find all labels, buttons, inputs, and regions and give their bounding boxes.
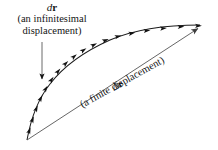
dr-label-group: dr (an infinitesimal displacement) (2, 1, 102, 37)
physics-displacement-figure: dr (an infinitesimal displacement) Δr (a… (0, 0, 218, 150)
dr-caption-line1: (an infinitesimal (2, 13, 102, 25)
dr-symbol-vector: r (52, 1, 57, 13)
dr-caption-line2: displacement) (2, 25, 102, 37)
dr-symbol: dr (2, 1, 102, 13)
